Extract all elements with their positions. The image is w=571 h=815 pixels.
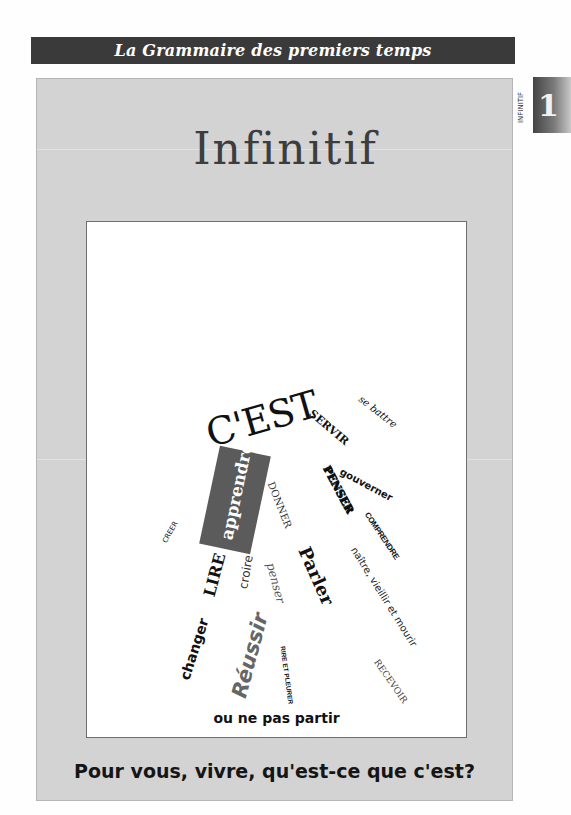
word-lire: LIRE — [202, 552, 229, 599]
question-prompt: Pour vous, vivre, qu'est-ce que c'est? — [0, 760, 549, 782]
word-reussir: Réussir — [229, 611, 272, 700]
page-title: Infinitif — [0, 123, 571, 174]
word-rire-et-pleurer: RIRE ET PLEURER — [279, 646, 294, 705]
word-naitre-vieillir-mourir: naître, vieillir et mourir — [349, 545, 419, 648]
word-recevoir: RECEVOIR — [372, 658, 409, 705]
word-penser: penser — [265, 561, 287, 604]
word-servir: SERVIR — [307, 408, 351, 447]
word-cest: C'EST — [202, 385, 322, 453]
word-croire: croire — [237, 554, 255, 590]
word-creer: CREER — [162, 521, 180, 545]
word-changer: changer — [177, 616, 210, 681]
header-bar: La Grammaire des premiers temps — [31, 37, 515, 64]
word-se-battre: se battre — [357, 394, 399, 430]
word-ou-ne-pas-partir: ou ne pas partir — [87, 711, 466, 725]
word-parler: Parler — [295, 544, 337, 608]
word-comprendre: COMPRENDRE — [363, 511, 400, 561]
word-donner: DONNER — [266, 481, 293, 530]
word-cloud: C'EST SERVIR se battre apprendre DONNER … — [86, 221, 467, 738]
chapter-number: 1 — [538, 88, 559, 123]
header-title: La Grammaire des premiers temps — [115, 41, 432, 60]
